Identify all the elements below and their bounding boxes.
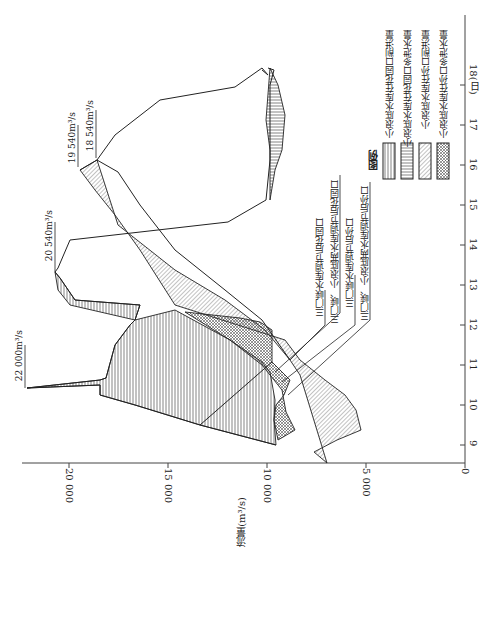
tick-day-11: 11 — [468, 358, 479, 371]
annotation-19540: 19 540m³/s — [67, 112, 78, 163]
tick-day-17: 17 — [468, 118, 479, 131]
tick-flow-0: 0 — [460, 468, 471, 474]
curve-label-3: 三门峡水库调节后孙口 — [344, 218, 355, 308]
area-hyk-rise — [55, 272, 140, 320]
curve-label-4: 三门峡、小浪底两水库调节后孙口 — [359, 186, 370, 321]
tick-day-16: 16 — [468, 158, 479, 171]
tick-flow-5000: 5 000 — [361, 468, 372, 497]
tick-day-9: 9 — [468, 440, 479, 446]
tick-flow-10000: 10 000 — [262, 468, 273, 503]
flow-axis-label: 流量(m³/s) — [236, 497, 247, 547]
legend-title: 图例 — [368, 150, 379, 170]
tick-day-10: 10 — [468, 398, 479, 411]
legend-label-1: 小浪底水库在花园口削洪量 — [384, 30, 395, 138]
curve-label-1: 三门峡水库调节后花园口 — [314, 218, 325, 317]
tick-flow-20000: 20 000 — [64, 468, 75, 503]
legend-label-2: 小浪底水库在花园口多泄水量 — [402, 30, 413, 147]
curve-label-2: 三门峡、小浪底两水库调节后花园口 — [329, 180, 340, 324]
legend-swatch-2 — [401, 143, 413, 179]
curve-late-recession — [97, 68, 268, 160]
tick-day-12: 12 — [468, 318, 479, 331]
legend-swatch-1 — [383, 143, 395, 179]
legend-label-4: 小浪底水库在孙口多泄水量 — [438, 30, 449, 138]
legend-label-3: 小浪底水库在孙口削洪量 — [420, 30, 431, 129]
tick-day-13: 13 — [468, 278, 479, 291]
tick-day-18: 18(日) — [468, 64, 479, 95]
legend-swatch-3 — [419, 143, 431, 179]
tick-flow-15000: 15 000 — [163, 468, 174, 503]
annotation-leaders — [25, 110, 96, 388]
annotation-20540: 20 540m³/s — [44, 210, 55, 261]
tick-day-15: 15 — [468, 198, 479, 211]
tick-day-14: 14 — [468, 238, 479, 251]
annotation-22000: 22 000m³/s — [14, 330, 25, 381]
area-hyk-extra — [266, 68, 285, 200]
chart-figure: 0 5 000 10 000 15 000 20 000 流量(m³/s) 9 … — [0, 0, 495, 631]
annotation-18540: 18 540m³/s — [85, 100, 96, 151]
legend-swatch-4 — [437, 143, 449, 179]
